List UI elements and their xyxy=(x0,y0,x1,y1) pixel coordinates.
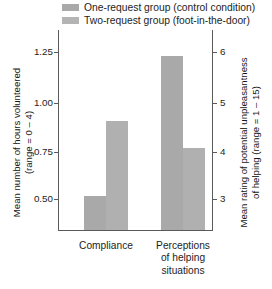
legend-item-one-request: One-request group (control condition) xyxy=(62,1,268,14)
left-axis-title: Mean number of hours volunteered (range … xyxy=(11,50,34,236)
left-tick-label: 1.25 xyxy=(34,46,53,57)
left-axis-line xyxy=(58,30,59,231)
left-tick-mark xyxy=(54,103,59,104)
right-tick-label: 6 xyxy=(220,46,225,57)
left-axis-title-line1: Mean number of hours volunteered xyxy=(11,68,22,217)
left-tick-mark xyxy=(54,199,59,200)
legend-label-two-request: Two-request group (foot-in-the-door) xyxy=(84,14,250,27)
legend-item-two-request: Two-request group (foot-in-the-door) xyxy=(62,14,268,27)
x-category-label-compliance: Compliance xyxy=(62,240,150,252)
legend-label-one-request: One-request group (control condition) xyxy=(84,1,255,14)
legend-swatch-icon-two-request xyxy=(62,17,79,24)
x-category-perceptions-line1: Perceptions xyxy=(156,240,210,251)
right-tick-mark xyxy=(212,152,217,153)
left-tick-mark xyxy=(54,52,59,53)
chart-legend: One-request group (control condition) Tw… xyxy=(62,1,268,27)
right-axis-title: Mean rating of potential unpleasantness … xyxy=(238,50,261,236)
x-category-compliance-line1: Compliance xyxy=(79,240,133,251)
right-axis-title-line1: Mean rating of potential unpleasantness xyxy=(238,57,249,227)
bar-compliance-one-request xyxy=(84,196,106,230)
x-category-perceptions-line3: situations xyxy=(161,265,204,276)
x-axis-line xyxy=(58,230,213,231)
right-tick-label: 5 xyxy=(220,97,225,108)
left-tick-label: 1.00 xyxy=(34,97,53,108)
left-axis-title-line2: (range = 0 – 4) xyxy=(22,50,34,236)
bar-compliance-two-request xyxy=(106,121,128,230)
figure: One-request group (control condition) Tw… xyxy=(0,0,272,289)
right-axis-line xyxy=(212,30,213,231)
left-tick-label: 0.75 xyxy=(34,146,53,157)
x-category-perceptions-line2: of helping xyxy=(161,252,205,263)
right-tick-label: 3 xyxy=(220,193,225,204)
x-category-label-perceptions: Perceptions of helping situations xyxy=(140,240,226,277)
bar-perceptions-one-request xyxy=(161,56,183,230)
right-tick-mark xyxy=(212,199,217,200)
right-tick-label: 4 xyxy=(220,146,225,157)
right-tick-mark xyxy=(212,103,217,104)
bar-perceptions-two-request xyxy=(183,148,205,230)
left-tick-mark xyxy=(54,152,59,153)
legend-swatch-icon-one-request xyxy=(62,4,79,11)
right-axis-title-line2: of helping (range = 1 – 15) xyxy=(249,50,261,236)
left-tick-label: 0.50 xyxy=(34,193,53,204)
right-tick-mark xyxy=(212,52,217,53)
